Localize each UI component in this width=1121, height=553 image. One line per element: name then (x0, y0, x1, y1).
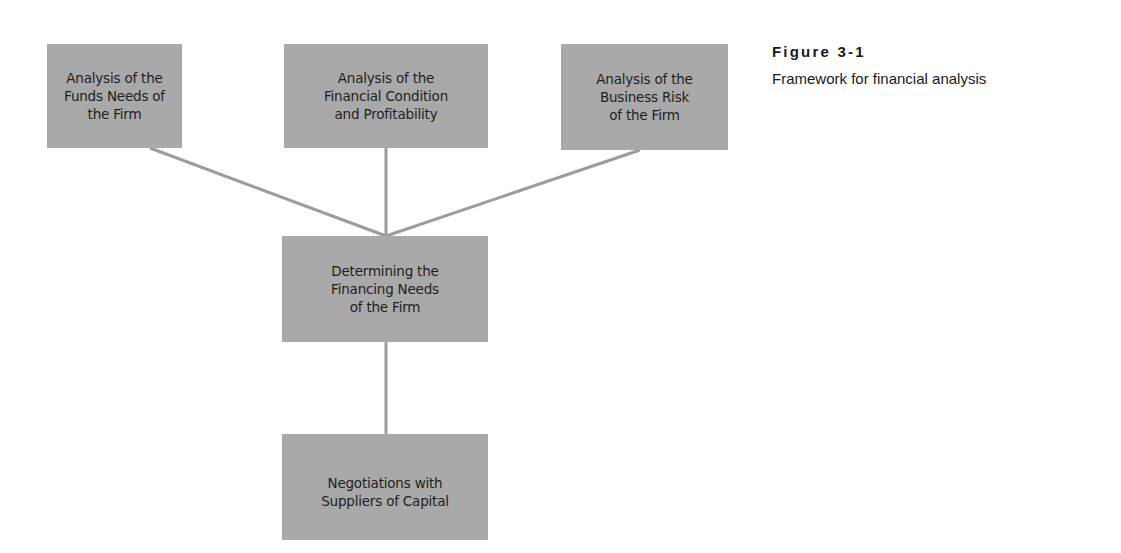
box-label: Analysis of the Financial Condition and … (324, 69, 448, 123)
box-financing-needs: Determining the Financing Needs of the F… (282, 236, 488, 342)
edge-funds-needs-to-financing-needs (150, 148, 386, 236)
box-financial-condition-analysis: Analysis of the Financial Condition and … (284, 44, 488, 148)
box-business-risk-analysis: Analysis of the Business Risk of the Fir… (561, 44, 728, 150)
box-label: Analysis of the Business Risk of the Fir… (596, 70, 692, 124)
box-negotiations: Negotiations with Suppliers of Capital (282, 434, 488, 540)
box-label: Determining the Financing Needs of the F… (331, 262, 439, 316)
edge-business-risk-to-financing-needs (386, 150, 640, 236)
figure-number: Figure 3-1 (772, 43, 986, 61)
figure-caption: Figure 3-1 Framework for financial analy… (772, 43, 986, 88)
box-label: Analysis of the Funds Needs of the Firm (64, 69, 165, 123)
box-funds-needs-analysis: Analysis of the Funds Needs of the Firm (47, 44, 182, 148)
figure-title: Framework for financial analysis (772, 70, 986, 88)
box-label: Negotiations with Suppliers of Capital (321, 474, 449, 510)
